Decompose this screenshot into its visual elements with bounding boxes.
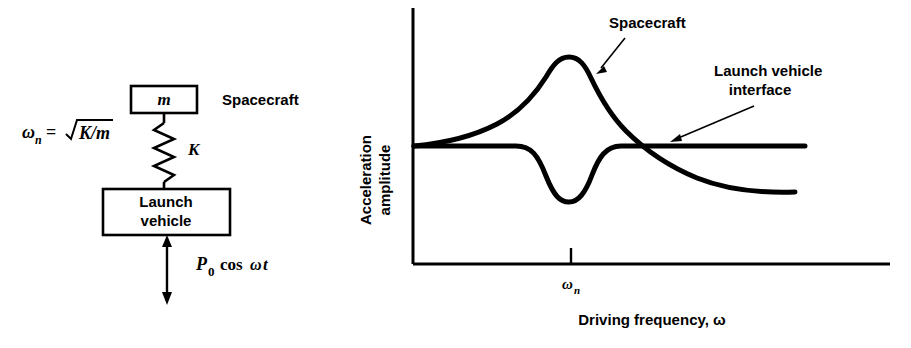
figure-root: ω n = K/m m Spacecraft K Launch (0, 0, 911, 348)
spring-mass-schematic: ω n = K/m m Spacecraft K Launch (22, 86, 299, 305)
formula-omega-subscript: n (35, 133, 42, 147)
annotation-interface-label-line2: interface (729, 81, 792, 98)
formula-omega: ω (22, 122, 35, 142)
annotation-interface-leader (676, 106, 754, 139)
natural-frequency-formula: ω n = K/m (22, 120, 113, 147)
mass-box-label: m (157, 90, 170, 109)
response-chart: ω n Driving frequency, ω Acceleration am… (357, 8, 890, 328)
x-axis-label: Driving frequency, ω (578, 311, 726, 328)
launch-vehicle-label-line1: Launch (139, 193, 192, 210)
x-axis-tick-label-resonance: ω n (562, 276, 580, 296)
annotation-interface-arrowhead (670, 134, 682, 142)
force-arrow-head-up (162, 235, 172, 247)
spacecraft-label: Spacecraft (222, 91, 299, 108)
annotation-interface-label-line1: Launch vehicle (714, 62, 822, 79)
spring-stiffness-label: K (187, 140, 201, 159)
force-label-p: P (195, 254, 208, 274)
force-arrow-head-down (162, 292, 172, 305)
force-label-omega: ω (250, 256, 262, 273)
force-label: P 0 cos ω t (195, 254, 269, 279)
formula-radicand: K/m (78, 123, 110, 143)
annotation-spacecraft-leader (601, 38, 625, 68)
formula-equals: = (46, 122, 56, 142)
annotation-spacecraft-label: Spacecraft (609, 14, 686, 31)
y-axis-label-line1: Acceleration (357, 135, 374, 225)
figure-canvas: ω n = K/m m Spacecraft K Launch (0, 0, 911, 348)
launch-vehicle-interface-curve (414, 146, 805, 202)
spring-coil (154, 123, 174, 182)
y-axis-label-line2: amplitude (376, 145, 393, 216)
tick-label-subscript: n (574, 284, 580, 296)
force-label-subscript: 0 (208, 264, 215, 279)
tick-label-omega: ω (562, 276, 573, 292)
force-label-t: t (263, 255, 269, 274)
force-label-cos: cos (220, 255, 243, 274)
launch-vehicle-label-line2: vehicle (141, 212, 192, 229)
